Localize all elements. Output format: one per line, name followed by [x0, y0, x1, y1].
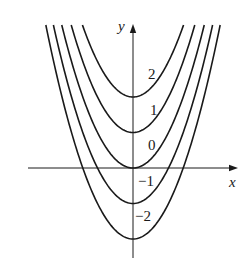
curve-label-c0: 0 [148, 137, 156, 153]
parabola-family-chart: x y 210−1−2 [0, 0, 251, 273]
y-axis-arrow-icon [130, 24, 136, 33]
y-axis-label: y [116, 18, 125, 34]
x-axis-arrow-icon [229, 165, 238, 171]
curve-label-c1: 1 [150, 102, 158, 118]
curve-label-c2: 2 [148, 66, 156, 82]
curve-labels-group: 210−1−2 [135, 66, 158, 224]
curve-label-c-1: −1 [138, 173, 154, 189]
curve-label-c-2: −2 [135, 208, 151, 224]
chart-canvas: x y 210−1−2 [0, 0, 251, 273]
x-axis-label: x [228, 174, 236, 190]
